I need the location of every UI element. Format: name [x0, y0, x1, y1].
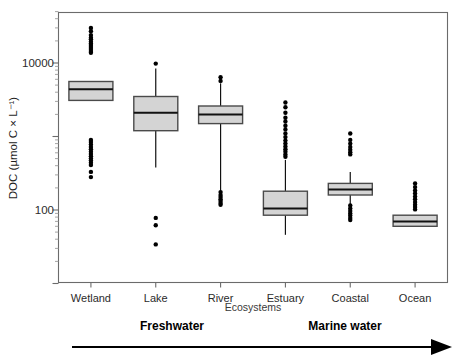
outlier-point	[283, 100, 287, 104]
x-tick-label-lake: Lake	[144, 292, 168, 304]
x-axis-title: Ecosystems	[225, 301, 282, 313]
outlier-point	[89, 163, 93, 167]
annotation-marine-water: Marine water	[308, 319, 382, 333]
outlier-point	[89, 175, 93, 179]
y-tick-label: 10000	[22, 57, 54, 69]
boxplot-estuary	[263, 100, 307, 235]
outlier-point	[89, 29, 93, 33]
x-axis-ticks	[91, 283, 415, 288]
salinity-gradient-arrow	[72, 339, 452, 355]
outlier-point	[89, 170, 93, 174]
outlier-point	[348, 218, 352, 222]
outlier-point	[154, 61, 158, 65]
outlier-point	[154, 216, 158, 220]
x-tick-label-coastal: Coastal	[332, 292, 369, 304]
outlier-point	[283, 119, 287, 123]
x-tick-label-ocean: Ocean	[399, 292, 431, 304]
chart-canvas: 10000100 DOC (µmol C × L⁻¹) WetlandLakeR…	[0, 0, 460, 360]
outlier-point	[283, 116, 287, 120]
outlier-point	[413, 207, 417, 211]
boxplot-ocean	[393, 181, 437, 226]
arrow-head-icon	[431, 339, 452, 355]
boxplot-figure: 10000100 DOC (µmol C × L⁻¹) WetlandLakeR…	[0, 0, 460, 360]
plot-frame	[59, 13, 448, 283]
outlier-point	[283, 111, 287, 115]
boxplot-wetland	[69, 26, 113, 180]
outlier-point	[283, 155, 287, 159]
boxplot-series-group	[69, 26, 437, 247]
y-tick-label: 100	[35, 204, 54, 216]
outlier-point	[89, 51, 93, 55]
outlier-point	[154, 242, 158, 246]
outlier-point	[283, 105, 287, 109]
boxplot-river	[199, 75, 243, 207]
y-axis-ticks	[53, 12, 59, 284]
annotation-freshwater: Freshwater	[140, 319, 204, 333]
outlier-point	[154, 223, 158, 227]
boxplot-lake	[134, 61, 178, 246]
x-tick-label-wetland: Wetland	[71, 292, 111, 304]
box-iqr	[69, 82, 113, 101]
outlier-point	[348, 152, 352, 156]
outlier-point	[348, 131, 352, 135]
outlier-point	[218, 203, 222, 207]
outlier-point	[283, 127, 287, 131]
outlier-point	[218, 79, 222, 83]
box-iqr	[263, 191, 307, 215]
boxplot-coastal	[328, 131, 372, 222]
y-axis-title: DOC (µmol C × L⁻¹)	[7, 97, 19, 200]
y-axis-tick-labels: 10000100	[22, 57, 54, 216]
